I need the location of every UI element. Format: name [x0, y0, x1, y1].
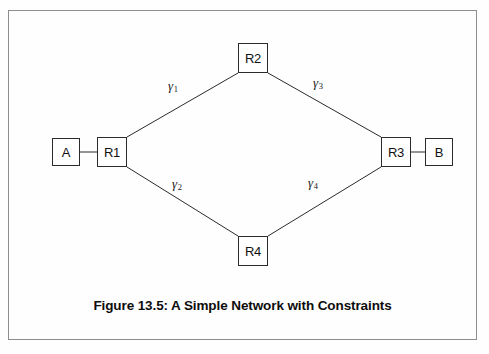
gamma-1-symbol: γ — [168, 78, 173, 93]
figure-caption: Figure 13.5: A Simple Network with Const… — [8, 298, 477, 313]
edge-label-gamma-1: γ1 — [168, 79, 177, 92]
edge-r1-r4 — [127, 167, 238, 236]
node-r4-label: R4 — [245, 245, 261, 258]
node-r1-label: R1 — [104, 146, 120, 159]
figure-page: A R1 R2 R3 R4 B γ1 γ3 γ2 γ4 Figure 13.5:… — [0, 0, 489, 354]
node-b[interactable]: B — [425, 138, 453, 166]
node-r3-label: R3 — [388, 146, 404, 159]
node-b-label: B — [435, 146, 443, 159]
edge-r1-r2 — [127, 73, 238, 137]
edge-label-gamma-3: γ3 — [313, 76, 322, 89]
gamma-2-symbol: γ — [172, 176, 177, 191]
node-r4[interactable]: R4 — [238, 236, 268, 266]
node-r1[interactable]: R1 — [97, 137, 127, 167]
gamma-4-symbol: γ — [308, 175, 313, 190]
edge-label-gamma-2: γ2 — [172, 177, 181, 190]
node-a-label: A — [62, 146, 70, 159]
node-r2-label: R2 — [245, 52, 261, 65]
node-a[interactable]: A — [52, 138, 80, 166]
edge-layer — [80, 73, 425, 236]
edge-label-gamma-4: γ4 — [308, 176, 317, 189]
gamma-2-subscript: 2 — [178, 182, 182, 192]
node-r2[interactable]: R2 — [238, 43, 268, 73]
edge-r2-r3 — [268, 73, 381, 137]
gamma-4-subscript: 4 — [314, 181, 318, 191]
gamma-3-symbol: γ — [313, 75, 318, 90]
gamma-1-subscript: 1 — [174, 84, 178, 94]
gamma-3-subscript: 3 — [319, 81, 323, 91]
edge-r4-r3 — [268, 167, 381, 236]
node-r3[interactable]: R3 — [381, 137, 411, 167]
